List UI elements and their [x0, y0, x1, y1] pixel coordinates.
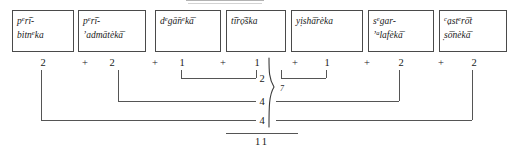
bracket-l1-left-stem-a — [181, 70, 182, 78]
term-2-line-1: perī̄- — [83, 14, 142, 28]
term-box-5: yịshā̄rèka — [291, 10, 363, 52]
bracket-l2-left-rail — [118, 101, 256, 102]
operator-1: + — [78, 57, 92, 68]
total-value: 11 — [226, 136, 298, 147]
term-box-6: segar- ʼalafèkā̄ — [368, 10, 434, 52]
bracket-l1-left-rail — [181, 78, 256, 79]
term-box-4: tī̄rọ̄ška — [226, 10, 286, 52]
total-divider — [226, 133, 298, 134]
term-6-line-1: segar- — [373, 14, 430, 28]
grouping-brace — [266, 57, 278, 129]
term-box-7: cạsterō̄t ̣sō̄nèkā̄ — [439, 10, 507, 52]
weight-7: 2 — [467, 57, 481, 68]
operator-4: + — [288, 57, 302, 68]
weight-3: 1 — [175, 57, 189, 68]
scan-artifact-line — [186, 0, 264, 1]
operator-2: + — [148, 57, 162, 68]
term-7-line-1: cạsterō̄t — [444, 14, 503, 28]
weight-5: 1 — [320, 57, 334, 68]
brace-sum-label: 7 — [280, 84, 284, 93]
weight-4: 1 — [250, 57, 264, 68]
term-1-line-2: bitneka — [17, 28, 70, 42]
bracket-l2-right-stem — [399, 70, 400, 101]
operator-6: + — [434, 57, 448, 68]
operator-5: + — [360, 57, 374, 68]
bracket-l3-right-stem — [472, 70, 473, 120]
bracket-l1-right-stem-a — [281, 70, 282, 78]
figure-canvas: perī̄- bitneka perī̄- ʼadmātèkā̄ degān̄e… — [0, 0, 521, 153]
term-1-line-1: perī̄- — [17, 14, 70, 28]
term-3-line-1: degān̄ekā̄ — [160, 14, 217, 28]
bracket-l3-left-stem — [41, 70, 42, 120]
term-box-1: perī̄- bitneka — [12, 10, 74, 52]
bracket-l2-left-stem — [118, 70, 119, 101]
term-6-line-2: ʼalafèkā̄ — [373, 28, 430, 42]
bracket-l1-right-rail — [281, 78, 326, 79]
scan-artifact-line-2 — [188, 3, 262, 4]
term-box-3: degān̄ekā̄ — [155, 10, 221, 52]
bracket-l3-right-rail — [276, 120, 472, 121]
term-5-line-1: yịshā̄rèka — [296, 14, 359, 28]
bracket-l3-left-rail — [41, 120, 256, 121]
term-2-line-2: ʼadmātèkā̄ — [83, 28, 142, 42]
operator-3: + — [216, 57, 230, 68]
bracket-l1-right-stem-b — [326, 70, 327, 78]
term-box-2: perī̄- ʼadmātèkā̄ — [78, 10, 146, 52]
term-4-line-1: tī̄rọ̄ška — [231, 14, 282, 28]
weight-1: 2 — [36, 57, 50, 68]
bracket-l2-right-rail — [276, 101, 399, 102]
weight-2: 2 — [105, 57, 119, 68]
term-7-line-2: ̣sō̄nèkā̄ — [444, 28, 503, 42]
weight-6: 2 — [394, 57, 408, 68]
